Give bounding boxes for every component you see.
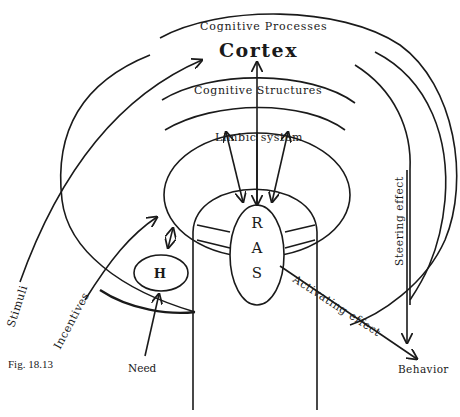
ras-a-label: A [251,239,263,257]
incentives-label: Incentives [51,290,92,351]
cognitive-structures-arc-2 [165,108,345,131]
figure-caption: Fig. 18.13 [8,358,53,370]
limbic-system-label: Limbic system [215,131,303,144]
ras-s-label: S [252,264,262,282]
cognitive-processes-arc [160,14,457,325]
hypothalamus-limbic-arrow [168,228,173,248]
diagram-canvas: Cognitive Processes Cortex Cognitive Str… [0,0,460,417]
activating-effect-label: Activating effect [290,272,384,339]
cortex-label: Cortex [219,39,298,61]
stimuli-label: Stimuli [4,284,30,329]
cognitive-processes-label: Cognitive Processes [200,20,327,33]
need-arrow [145,294,159,356]
steering-effect-label: Steering effect [393,176,405,266]
behavior-label: Behavior [398,363,449,375]
hypothalamus-label: H [154,266,166,281]
need-label: Need [128,362,157,374]
cognitive-structures-label: Cognitive Structures [194,84,322,97]
ras-r-label: R [251,214,263,232]
